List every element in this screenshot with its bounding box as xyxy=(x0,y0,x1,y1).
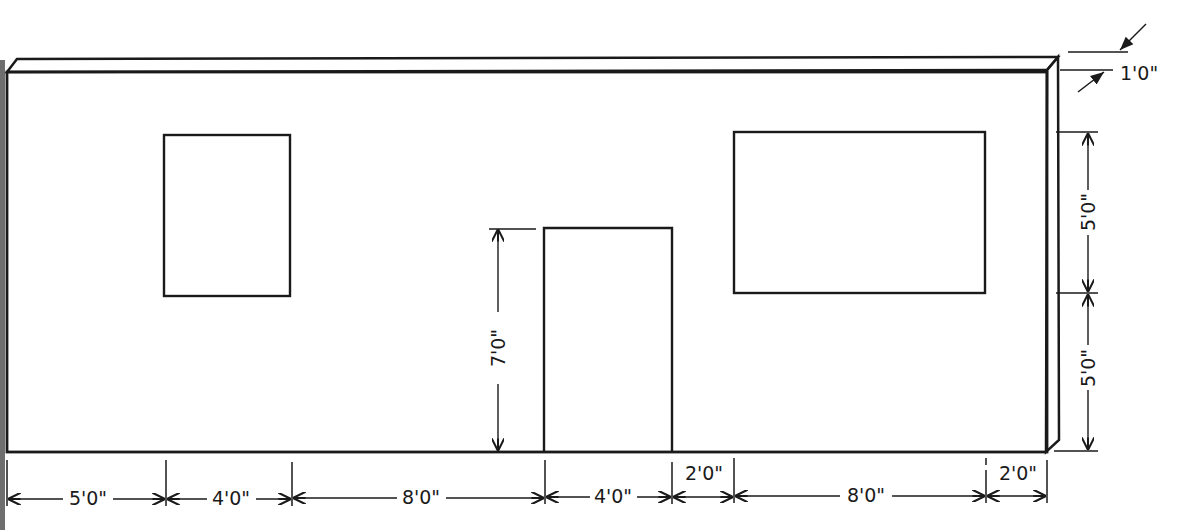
bottom-dimensions: 5'0" 4'0" 8'0" 4'0" 2'0" 8'0" 2'0" xyxy=(8,462,1046,509)
small-window xyxy=(164,135,290,296)
dim-label-3: 8'0" xyxy=(402,486,440,508)
large-window xyxy=(734,132,985,293)
wall-elevation-drawing: 7'0" 1'0" 5'0" 5'0" 5'0" xyxy=(0,0,1191,532)
door xyxy=(544,228,672,452)
upper-height-label: 5'0" xyxy=(1077,193,1099,231)
lower-height-label: 5'0" xyxy=(1077,349,1099,387)
dim-label-1: 5'0" xyxy=(69,487,107,509)
wall-thickness-dimension: 1'0" xyxy=(1060,24,1158,92)
left-shadow xyxy=(0,60,5,530)
wall-top-edge xyxy=(7,57,1058,72)
dim-label-5: 2'0" xyxy=(685,462,723,484)
door-height-dimension: 7'0" xyxy=(487,229,536,451)
right-height-dimensions: 5'0" 5'0" xyxy=(1054,132,1099,451)
dim-label-7: 2'0" xyxy=(999,462,1037,484)
dim-label-4: 4'0" xyxy=(594,485,632,507)
dim-label-2: 4'0" xyxy=(212,487,250,509)
wall-thickness-label: 1'0" xyxy=(1120,62,1158,84)
dim-label-6: 8'0" xyxy=(847,484,885,506)
door-height-label: 7'0" xyxy=(487,329,509,367)
